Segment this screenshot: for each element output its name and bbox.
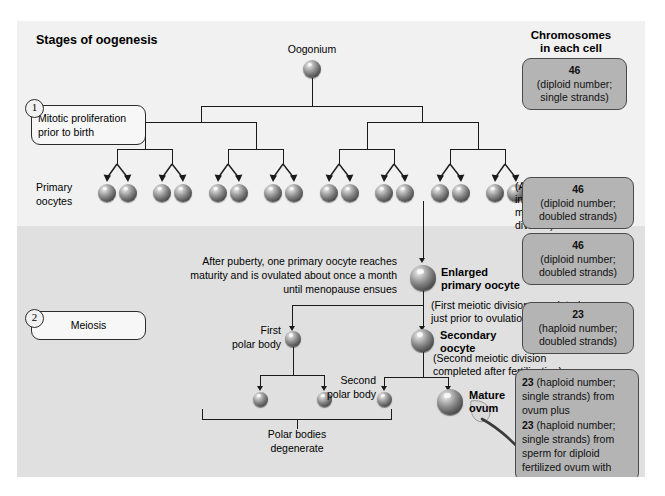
primary-oocyte-cell xyxy=(174,184,192,202)
line-polar-split-stem xyxy=(293,347,294,376)
polar-bodies-degenerate-line2: degenerate xyxy=(227,442,367,454)
line-first-division-bar xyxy=(292,305,423,306)
enlarged-primary-oocyte-cell xyxy=(410,265,436,291)
stage-number-1: 1 xyxy=(25,99,44,118)
chromosome-box-3-line2: doubled strands) xyxy=(529,266,627,280)
primary-oocyte-cell xyxy=(230,184,248,202)
chromosome-box-4: 23 (haploid number; doubled strands) xyxy=(522,302,634,354)
first-polar-body-cell xyxy=(285,331,301,347)
line-to-enlarged-oocyte xyxy=(423,201,424,259)
chromosome-box-1-line1: (diploid number; xyxy=(529,78,620,92)
primary-oocyte-cell xyxy=(285,184,303,202)
arrow-polar-product-left xyxy=(257,386,263,391)
polar-bodies-degenerate-line1: Polar bodies xyxy=(227,428,367,440)
chromosome-box-4-count: 23 xyxy=(529,308,627,322)
primary-oocyte-cell xyxy=(341,184,359,202)
chromosome-box-1-count: 46 xyxy=(529,64,620,78)
chromosome-box-2-count: 46 xyxy=(529,183,627,197)
primary-oocyte-cell xyxy=(375,184,393,202)
line-first-division-leg-left xyxy=(292,305,293,327)
first-polar-body-label-line2: polar body xyxy=(207,338,281,350)
fertilized-box-line2: single strands) from xyxy=(522,389,632,403)
chromosome-box-3: 46 (diploid number; doubled strands) xyxy=(522,233,634,285)
fertilized-box-line3: ovum plus xyxy=(522,403,632,417)
stage-number-2: 2 xyxy=(25,309,44,328)
fertilized-box-line7: fertilized ovum with xyxy=(522,460,632,474)
primary-oocytes-label-line2: oocytes xyxy=(36,195,72,207)
after-puberty-line3: until menopause ensues xyxy=(167,283,397,295)
enlarged-primary-oocyte-label-line1: Enlarged xyxy=(441,266,488,279)
chromosome-box-1-line2: single strands) xyxy=(529,91,620,105)
chromosome-box-2-line2: doubled strands) xyxy=(529,210,627,224)
first-meiotic-note-line2: just prior to ovulation) xyxy=(431,312,531,324)
fertilized-ovum-box: 23 (haploid number; single strands) from… xyxy=(515,369,639,477)
fertilized-box-line4-rest: (haploid number; xyxy=(534,419,616,431)
secondary-oocyte-cell xyxy=(411,329,434,352)
chromosome-box-2: 46 (diploid number; doubled strands) xyxy=(522,177,634,229)
arrow-to-enlarged-oocyte xyxy=(419,258,425,263)
fertilized-box-line1-rest: (haploid number; xyxy=(534,376,616,388)
primary-oocyte-cell xyxy=(486,184,504,202)
fertilized-box-line5: single strands) from xyxy=(522,432,632,446)
secondary-oocyte-label-line1: Secondary xyxy=(440,329,496,342)
second-polar-body-label-line2: polar body xyxy=(302,388,376,400)
polar-body-product-left xyxy=(253,392,268,407)
primary-oocyte-cell xyxy=(320,184,338,202)
enlarged-primary-oocyte-label-line2: primary oocyte xyxy=(441,279,520,292)
primary-oocyte-cell xyxy=(264,184,282,202)
mature-ovum-cell xyxy=(437,389,463,415)
polar-bodies-bracket xyxy=(202,409,392,420)
chromosome-box-3-count: 46 xyxy=(529,239,627,253)
mature-ovum-label-line2: ovum xyxy=(469,402,498,415)
primary-oocyte-cell xyxy=(452,184,470,202)
primary-oocyte-cell xyxy=(431,184,449,202)
fertilized-box-line1-count: 23 xyxy=(522,376,534,388)
line-second-division-stem xyxy=(423,352,424,378)
arrow-second-polar-body xyxy=(381,386,387,391)
fertilized-box-line4-count: 23 xyxy=(522,419,534,431)
primary-oocyte-cell xyxy=(209,184,227,202)
primary-oocytes-label-line1: Primary xyxy=(36,181,72,193)
fertilized-box-line8: 46 chromosomes xyxy=(522,474,632,477)
chromosome-box-2-line1: (diploid number; xyxy=(529,197,627,211)
after-puberty-line1: After puberty, one primary oocyte reache… xyxy=(167,255,397,267)
chromosome-box-1: 46 (diploid number; single strands) xyxy=(522,58,627,110)
primary-oocyte-cell xyxy=(98,184,116,202)
chromosome-box-3-line1: (diploid number; xyxy=(529,253,627,267)
chromosome-box-4-line2: doubled strands) xyxy=(529,335,627,349)
second-polar-body-cell xyxy=(377,392,392,407)
mature-ovum-label-line1: Mature xyxy=(469,389,505,402)
second-polar-body-label-line1: Second xyxy=(312,374,376,386)
primary-oocyte-cell xyxy=(119,184,137,202)
chromosome-box-4-line1: (haploid number; xyxy=(529,322,627,336)
first-polar-body-label-line1: First xyxy=(217,324,281,336)
primary-oocyte-cell xyxy=(153,184,171,202)
primary-oocyte-cell xyxy=(396,184,414,202)
oogenesis-diagram-panel: Stages of oogenesis Chromosomes in each … xyxy=(17,21,645,477)
after-puberty-line2: maturity and is ovulated about once a mo… xyxy=(157,269,397,281)
line-first-division-stem xyxy=(423,291,424,327)
fertilized-box-line6: sperm for diploid xyxy=(522,446,632,460)
